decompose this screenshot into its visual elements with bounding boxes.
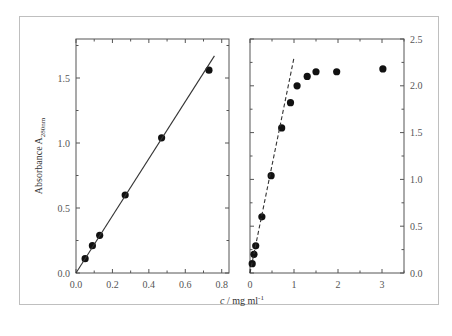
- x-tick-label: 0: [248, 279, 253, 290]
- y-tick-label: 0.5: [410, 221, 423, 232]
- absorbance-chart: 0.00.20.40.60.80.00.51.01.501230.00.51.0…: [0, 0, 452, 336]
- x-tick-label: 1: [292, 279, 297, 290]
- x-tick-label: 0.4: [143, 279, 156, 290]
- y-tick-label: 1.0: [410, 174, 423, 185]
- data-point: [312, 68, 319, 75]
- y-tick-label: 0.0: [58, 268, 71, 279]
- extrapolation-line: [250, 58, 294, 273]
- y-tick-label: 1.5: [58, 73, 71, 84]
- y-tick-label: 0.0: [410, 268, 423, 279]
- data-point: [268, 172, 275, 179]
- data-point: [293, 82, 300, 89]
- x-tick-label: 0.0: [70, 279, 83, 290]
- y-tick-label: 1.5: [410, 127, 423, 138]
- y-tick-label: 1.0: [58, 138, 71, 149]
- x-tick-label: 0.2: [106, 279, 119, 290]
- plot-panel-left: 0.00.20.40.60.80.00.51.01.5: [58, 39, 230, 290]
- x-tick-label: 3: [380, 279, 385, 290]
- x-tick-label: 0.8: [215, 279, 228, 290]
- y-axis-label: Absorbance A280nm: [33, 117, 47, 194]
- plot-panel-right: 01230.00.51.01.52.02.5: [248, 34, 423, 291]
- plot-area: [250, 39, 404, 273]
- y-tick-label: 0.5: [58, 203, 71, 214]
- data-point: [287, 99, 294, 106]
- fit-line: [76, 56, 214, 273]
- x-tick-label: 2: [336, 279, 341, 290]
- data-point: [333, 68, 340, 75]
- y-tick-label: 2.5: [410, 34, 423, 45]
- y-tick-label: 2.0: [410, 80, 423, 91]
- x-axis-label: c / mg ml-1: [220, 294, 264, 306]
- data-point: [379, 65, 386, 72]
- data-point: [304, 73, 311, 80]
- x-tick-label: 0.6: [179, 279, 192, 290]
